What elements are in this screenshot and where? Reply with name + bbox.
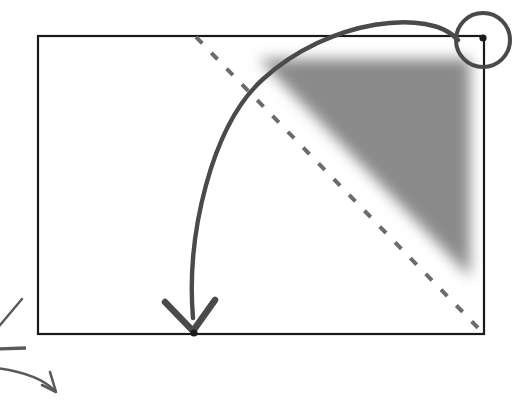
margin-tick-diagonal [0, 299, 22, 330]
margin-tick-dash [0, 348, 26, 349]
target-point-bottom [190, 329, 197, 336]
corner-point-top-right [479, 34, 486, 41]
shaded-wedge [259, 59, 470, 277]
diagram-svg [0, 0, 528, 401]
diagram-canvas: Rectangle with a shaded triangular wedge… [0, 0, 528, 401]
